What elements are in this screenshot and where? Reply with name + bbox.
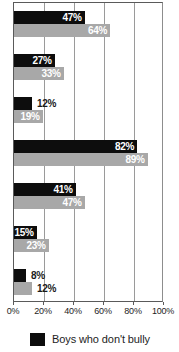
bar-track: 33% <box>14 67 162 80</box>
x-tick-mark <box>103 302 104 305</box>
bar-track: 41% <box>14 183 162 196</box>
bar-track: 64% <box>14 24 162 37</box>
bar-value-label: 47% <box>14 11 85 24</box>
x-tick-label: 40% <box>64 306 81 316</box>
bar <box>14 282 32 295</box>
bar-group: 8%12% <box>14 260 162 303</box>
bar-track: 82% <box>14 140 162 153</box>
x-tick-label: 60% <box>94 306 111 316</box>
bar-value-label: 82% <box>14 140 137 153</box>
x-tick-mark <box>133 302 134 305</box>
x-tick-label: 80% <box>124 306 141 316</box>
bar-value-label: 64% <box>14 24 110 37</box>
bar-track: 15% <box>14 226 162 239</box>
legend-label: Boys who don't bully <box>52 333 150 345</box>
bar-track: 12% <box>14 282 162 295</box>
bar-track: 47% <box>14 11 162 24</box>
legend-item-boys-who-dont-bully: Boys who don't bully <box>0 333 150 346</box>
chart-legend: Boys who don't bully <box>0 330 179 348</box>
x-tick-label: 20% <box>34 306 51 316</box>
bar-track: 8% <box>14 269 162 282</box>
plot-area: 47%64%27%33%12%19%82%89%41%47%15%23%8%12… <box>13 2 163 302</box>
x-tick-mark <box>13 302 14 305</box>
bar-track: 47% <box>14 196 162 209</box>
bar-value-label: 8% <box>26 269 45 282</box>
bar-track: 89% <box>14 153 162 166</box>
bar-group: 15%23% <box>14 217 162 260</box>
bar-value-label: 33% <box>14 67 64 80</box>
bar-track: 27% <box>14 54 162 67</box>
x-tick-mark <box>43 302 44 305</box>
bar-value-label: 12% <box>32 282 56 295</box>
bar-value-label: 89% <box>14 153 148 166</box>
legend-swatch-icon <box>30 333 45 346</box>
x-tick-label: 0% <box>7 306 20 316</box>
x-axis: 0%20%40%60%80%100% <box>13 302 163 322</box>
bar-track: 23% <box>14 239 162 252</box>
bar-value-label: 47% <box>14 196 85 209</box>
bar-value-label: 27% <box>14 54 55 67</box>
bar-value-label: 19% <box>14 110 43 123</box>
bar-value-label: 15% <box>14 226 37 239</box>
bar-chart: 47%64%27%33%12%19%82%89%41%47%15%23%8%12… <box>0 0 179 352</box>
bar <box>14 97 32 110</box>
bar-track: 12% <box>14 97 162 110</box>
bar-group: 41%47% <box>14 174 162 217</box>
bar-value-label: 23% <box>14 239 49 252</box>
bar-group: 47%64% <box>14 3 162 46</box>
bar-rows: 47%64%27%33%12%19%82%89%41%47%15%23%8%12… <box>14 3 162 301</box>
bar-group: 12%19% <box>14 89 162 132</box>
x-tick-mark <box>73 302 74 305</box>
bar-track: 19% <box>14 110 162 123</box>
bar-group: 27%33% <box>14 46 162 89</box>
bar-group: 82%89% <box>14 132 162 175</box>
bar-value-label: 41% <box>14 183 76 196</box>
x-tick-mark <box>163 302 164 305</box>
x-tick-label: 100% <box>152 306 174 316</box>
bar <box>14 269 26 282</box>
bar-value-label: 12% <box>32 97 56 110</box>
